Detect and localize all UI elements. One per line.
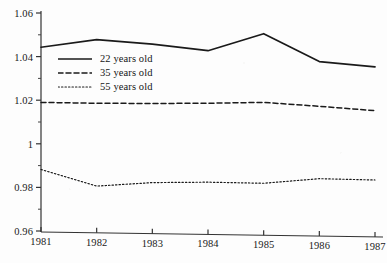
y-tick-label: 0.98	[0, 182, 33, 193]
x-tick-label: 1982	[86, 237, 107, 248]
series-line-3	[41, 170, 375, 187]
y-tick-label: 0.96	[0, 226, 33, 237]
x-tick-label: 1986	[309, 240, 330, 251]
x-tick-label: 1985	[253, 239, 274, 250]
legend-line-sample-dotted	[58, 82, 92, 92]
legend-line-sample-solid	[58, 54, 92, 64]
plot-area	[0, 0, 387, 263]
legend-line-sample-dashed	[58, 68, 92, 78]
y-tick-label: 1.06	[0, 8, 33, 19]
y-tick-label: 1.02	[0, 95, 33, 106]
x-tick-label: 1987	[364, 241, 385, 252]
y-tick-label: 1.04	[0, 51, 33, 62]
x-tick-label: 1984	[197, 238, 218, 249]
axis-lines	[41, 11, 383, 237]
y-tick-label: 1	[0, 138, 33, 149]
x-tick-label: 1983	[142, 238, 163, 249]
series-line-2	[41, 102, 375, 110]
legend-item: 55 years old	[58, 80, 153, 93]
legend-item: 22 years old	[58, 52, 153, 65]
chart-legend: 22 years old35 years old55 years old	[58, 52, 153, 94]
legend-label: 55 years old	[100, 81, 153, 92]
legend-item: 35 years old	[58, 66, 153, 79]
legend-label: 22 years old	[100, 53, 153, 64]
x-tick-label: 1981	[30, 236, 51, 247]
x-axis-ticks	[41, 227, 375, 237]
legend-label: 35 years old	[100, 67, 153, 78]
line-chart: 1.061.041.0210.980.96 198119821983198419…	[0, 0, 387, 263]
